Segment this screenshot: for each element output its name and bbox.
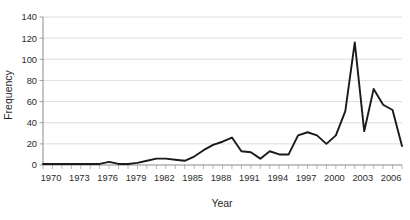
y-axis-tick-labels: 020406080100120140 bbox=[21, 12, 37, 170]
x-tick-label: 1979 bbox=[126, 173, 147, 183]
y-tick-label: 60 bbox=[27, 97, 37, 107]
y-tick-label: 120 bbox=[21, 34, 37, 44]
x-tick-label: 2000 bbox=[324, 173, 345, 183]
y-tick-label: 80 bbox=[27, 76, 37, 86]
x-tick-label: 1985 bbox=[182, 173, 203, 183]
gridlines bbox=[43, 17, 402, 144]
y-tick-label: 40 bbox=[27, 118, 37, 128]
y-tick-label: 140 bbox=[21, 12, 37, 22]
chart-container: 020406080100120140 197019731976197919821… bbox=[0, 0, 410, 220]
x-tick-label: 1997 bbox=[296, 173, 317, 183]
x-axis-tick-labels: 1970197319761979198219851988199119941997… bbox=[41, 173, 402, 183]
x-tick-label: 2003 bbox=[352, 173, 373, 183]
x-tick-label: 1994 bbox=[267, 173, 288, 183]
frequency-line-chart: 020406080100120140 197019731976197919821… bbox=[0, 0, 410, 220]
x-tick-label: 1976 bbox=[97, 173, 118, 183]
y-axis-ticks bbox=[40, 17, 44, 165]
x-tick-label: 1991 bbox=[239, 173, 260, 183]
x-axis-title: Year bbox=[211, 197, 233, 209]
y-tick-label: 100 bbox=[21, 55, 37, 65]
y-tick-label: 0 bbox=[32, 160, 37, 170]
y-axis-title: Frequency bbox=[2, 69, 14, 119]
data-series-line bbox=[43, 42, 402, 164]
x-tick-label: 1973 bbox=[69, 173, 90, 183]
x-tick-label: 1970 bbox=[41, 173, 62, 183]
x-tick-label: 1988 bbox=[211, 173, 232, 183]
x-tick-label: 2006 bbox=[381, 173, 402, 183]
y-tick-label: 20 bbox=[27, 139, 37, 149]
x-tick-label: 1982 bbox=[154, 173, 175, 183]
x-axis-ticks bbox=[43, 165, 402, 169]
